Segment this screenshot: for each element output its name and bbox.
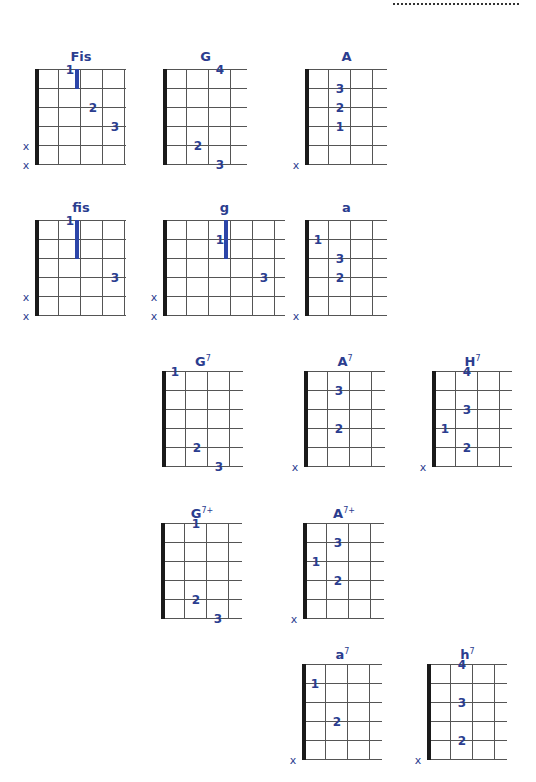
chord-root: fis [72, 200, 89, 215]
chord-quality: 7 [470, 647, 475, 656]
finger-number: 4 [458, 659, 466, 671]
finger-number: 1 [192, 518, 200, 530]
muted-string-x: x [151, 311, 158, 322]
chord-name: A7 [337, 352, 352, 368]
nut [432, 371, 436, 467]
barre-marker [75, 220, 79, 259]
barre-marker [224, 220, 228, 259]
finger-number: 2 [336, 102, 344, 114]
finger-number: 3 [214, 613, 222, 625]
finger-number: 2 [333, 716, 341, 728]
nut [162, 371, 166, 467]
nut [163, 69, 167, 165]
finger-number: 3 [111, 272, 119, 284]
chord-name: A [341, 50, 351, 63]
chord-quality: 7+ [343, 506, 355, 515]
muted-string-x: x [151, 292, 158, 303]
chord-root: A [333, 506, 343, 521]
fretboard-grid [433, 371, 516, 468]
finger-number: 3 [336, 253, 344, 265]
muted-string-x: x [290, 755, 297, 766]
chord-quality: 7+ [201, 506, 213, 515]
nut [35, 220, 39, 316]
finger-number: 2 [194, 140, 202, 152]
chord-root: G [200, 49, 211, 64]
chord-quality: 7 [344, 647, 349, 656]
nut [302, 664, 306, 760]
nut [427, 664, 431, 760]
chord-name: Fis [70, 50, 91, 63]
fretboard-grid [36, 69, 130, 166]
nut [163, 220, 167, 316]
nut [305, 69, 309, 165]
fretboard-grid [164, 220, 289, 317]
nut [305, 220, 309, 316]
nut [35, 69, 39, 165]
fretboard-grid [304, 523, 388, 620]
barre-marker [75, 69, 79, 89]
finger-number: 2 [336, 272, 344, 284]
finger-number: 3 [260, 272, 268, 284]
chord-quality: 7 [475, 354, 480, 363]
chord-root: a [342, 200, 351, 215]
finger-number: 1 [311, 678, 319, 690]
finger-number: 3 [111, 121, 119, 133]
muted-string-x: x [291, 614, 298, 625]
finger-number: 4 [216, 64, 224, 76]
finger-number: 1 [314, 234, 322, 246]
finger-number: 3 [463, 404, 471, 416]
chord-root: A [341, 49, 351, 64]
finger-number: 2 [458, 735, 466, 747]
fretboard-grid [305, 371, 389, 468]
finger-number: 2 [192, 594, 200, 606]
chord-name: a7 [336, 645, 350, 661]
chord-root: a [336, 647, 345, 662]
finger-number: 1 [441, 423, 449, 435]
fretboard-grid [36, 220, 130, 317]
chord-name: a [342, 201, 351, 214]
finger-number: 2 [89, 102, 97, 114]
chord-quality: 7 [206, 354, 211, 363]
chord-root: A [337, 354, 347, 369]
fretboard-grid [163, 371, 247, 468]
chord-root: g [220, 200, 229, 215]
finger-number: 2 [334, 575, 342, 587]
finger-number: 4 [463, 366, 471, 378]
finger-number: 3 [216, 159, 224, 171]
finger-number: 1 [66, 64, 74, 76]
finger-number: 1 [66, 215, 74, 227]
finger-number: 3 [335, 385, 343, 397]
fretboard-grid [164, 69, 251, 166]
muted-string-x: x [293, 160, 300, 171]
chord-name: A7+ [333, 504, 355, 520]
chord-root: Fis [70, 49, 91, 64]
finger-number: 1 [336, 121, 344, 133]
chord-name: G [200, 50, 211, 63]
muted-string-x: x [415, 755, 422, 766]
muted-string-x: x [23, 311, 30, 322]
muted-string-x: x [420, 462, 427, 473]
nut [303, 523, 307, 619]
chord-quality: 7 [347, 354, 352, 363]
finger-number: 2 [335, 423, 343, 435]
finger-number: 1 [171, 366, 179, 378]
finger-number: 1 [312, 556, 320, 568]
finger-number: 3 [334, 537, 342, 549]
fretboard-grid [428, 664, 511, 761]
muted-string-x: x [293, 311, 300, 322]
chord-name: fis [72, 201, 89, 214]
finger-number: 2 [193, 442, 201, 454]
fretboard-grid [162, 523, 246, 620]
finger-number: 1 [216, 234, 224, 246]
muted-string-x: x [23, 141, 30, 152]
finger-number: 3 [336, 83, 344, 95]
header-dotted-rule [393, 3, 519, 5]
finger-number: 3 [215, 461, 223, 473]
muted-string-x: x [23, 292, 30, 303]
muted-string-x: x [292, 462, 299, 473]
finger-number: 3 [458, 697, 466, 709]
nut [304, 371, 308, 467]
chord-name: g [220, 201, 229, 214]
nut [161, 523, 165, 619]
muted-string-x: x [23, 160, 30, 171]
